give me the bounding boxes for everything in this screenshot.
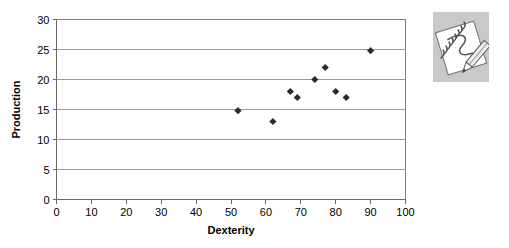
- x-tick-label-0: 0: [53, 206, 59, 218]
- notepad-with-pencil-graphic: [433, 12, 489, 82]
- x-tick-label-10: 10: [85, 206, 97, 218]
- x-tick-label-90: 90: [364, 206, 376, 218]
- y-tick-label-0: 0: [43, 194, 49, 206]
- y-tick-label-15: 15: [37, 104, 49, 116]
- x-axis-title: Dexterity: [207, 224, 255, 236]
- notepad-with-pencil-icon: [433, 12, 489, 82]
- data-point-0-2: [287, 88, 294, 95]
- y-tick-label-20: 20: [37, 74, 49, 86]
- x-tick-label-80: 80: [330, 206, 342, 218]
- x-tick-label-30: 30: [155, 206, 167, 218]
- data-point-0-3: [294, 94, 301, 101]
- y-axis-title: Production: [10, 80, 22, 138]
- data-point-0-4: [311, 76, 318, 83]
- data-point-0-8: [367, 47, 374, 54]
- x-tick-label-60: 60: [260, 206, 272, 218]
- data-point-0-1: [269, 118, 276, 125]
- x-tick-label-40: 40: [190, 206, 202, 218]
- data-point-0-5: [322, 64, 329, 71]
- data-point-0-7: [343, 94, 350, 101]
- x-tick-label-20: 20: [120, 206, 132, 218]
- y-tick-label-5: 5: [43, 164, 49, 176]
- y-tick-label-30: 30: [37, 14, 49, 26]
- data-point-0-6: [332, 88, 339, 95]
- x-tick-label-100: 100: [396, 206, 414, 218]
- x-tick-label-50: 50: [225, 206, 237, 218]
- y-tick-label-10: 10: [37, 134, 49, 146]
- scatter-plot-svg: 0510152025300102030405060708090100Dexter…: [0, 0, 424, 248]
- y-tick-label-25: 25: [37, 44, 49, 56]
- x-tick-label-70: 70: [295, 206, 307, 218]
- scatter-chart-figure: 0510152025300102030405060708090100Dexter…: [0, 0, 424, 248]
- data-point-0-0: [234, 107, 241, 114]
